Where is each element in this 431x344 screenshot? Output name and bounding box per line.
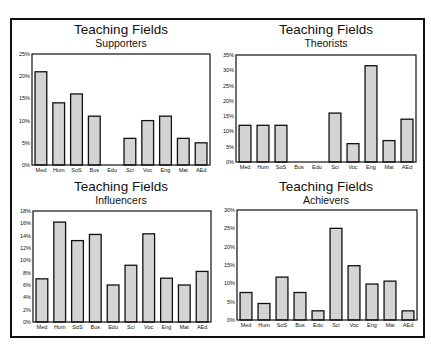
bar-sos — [71, 94, 83, 165]
y-tick-label: 10% — [19, 118, 30, 124]
bar-aed — [196, 271, 208, 322]
chart-theorists: Teaching Fields Theorists 0%5%10%15%20%2… — [223, 22, 416, 170]
bar-med — [239, 125, 251, 162]
x-tick-label: AEd — [197, 324, 207, 330]
x-tick-label: Eng — [161, 167, 171, 173]
y-tick-label: 25% — [19, 51, 30, 57]
x-tick-label: Voc — [143, 167, 152, 173]
bar-aed — [401, 119, 413, 162]
y-tick-label: 4% — [23, 294, 31, 300]
x-tick-label: AEd — [196, 167, 206, 173]
y-tick-label: 0% — [226, 159, 234, 165]
x-tick-label: Hum — [53, 167, 65, 173]
chart-subtitle: Achievers — [303, 194, 349, 206]
bar-sci — [125, 265, 137, 322]
x-tick-label: SoS — [276, 164, 287, 170]
y-tick-label: 15% — [224, 262, 235, 268]
y-tick-label: 10% — [20, 257, 31, 263]
x-tick-label: Bus — [90, 167, 100, 173]
bar-eng — [160, 116, 172, 165]
x-tick-label: SoS — [277, 322, 288, 328]
y-tick-label: 15% — [223, 113, 234, 119]
bar-aed — [195, 143, 207, 165]
x-tick-label: Edu — [108, 324, 118, 330]
x-tick-label: Mat — [384, 164, 394, 170]
bar-voc — [348, 266, 360, 320]
bar-edu — [107, 285, 119, 322]
x-tick-label: Hum — [257, 164, 269, 170]
bar-voc — [143, 234, 155, 322]
x-tick-label: Sci — [332, 322, 340, 328]
bar-edu — [312, 311, 324, 320]
x-tick-label: Med — [241, 322, 252, 328]
y-tick-label: 5% — [227, 299, 235, 305]
chart-influencers: Teaching Fields Influencers 0%2%4%6%8%10… — [20, 179, 211, 330]
y-tick-label: 30% — [223, 67, 234, 73]
bar-med — [240, 293, 252, 321]
y-tick-label: 8% — [23, 270, 31, 276]
x-tick-label: Med — [240, 164, 251, 170]
y-tick-label: 35% — [223, 52, 234, 58]
bar-med — [35, 72, 47, 165]
chart-title: Teaching Fields — [74, 22, 168, 37]
bar-mat — [177, 138, 189, 165]
x-tick-label: Voc — [349, 322, 358, 328]
x-tick-label: SoS — [71, 167, 82, 173]
bar-aed — [402, 311, 414, 320]
x-tick-label: Hum — [54, 324, 66, 330]
x-tick-label: Mat — [385, 322, 395, 328]
bar-sci — [124, 138, 136, 165]
bar-hum — [258, 304, 270, 321]
x-tick-label: Eng — [162, 324, 172, 330]
bar-sci — [330, 228, 342, 320]
bar-hum — [54, 222, 66, 322]
x-tick-label: Mat — [179, 167, 189, 173]
y-tick-label: 20% — [19, 73, 30, 79]
bar-voc — [347, 144, 359, 162]
x-tick-label: Bus — [294, 164, 304, 170]
y-tick-label: 2% — [23, 307, 31, 313]
chart-title: Teaching Fields — [74, 179, 168, 194]
y-tick-label: 0% — [22, 162, 30, 168]
y-tick-label: 0% — [227, 317, 235, 323]
chart-supporters: Teaching Fields Supporters 0%5%10%15%20%… — [19, 22, 210, 173]
bar-eng — [366, 284, 378, 320]
x-tick-label: Sci — [126, 167, 134, 173]
x-tick-label: Eng — [366, 164, 376, 170]
chart-subtitle: Theorists — [304, 37, 347, 49]
x-tick-label: AEd — [403, 322, 413, 328]
bar-bus — [89, 234, 101, 322]
bar-sos — [275, 125, 287, 162]
x-tick-label: Mat — [180, 324, 190, 330]
bar-sos — [276, 277, 288, 320]
x-tick-label: Edu — [313, 322, 323, 328]
bar-eng — [365, 66, 377, 162]
x-tick-label: Sci — [331, 164, 339, 170]
bar-hum — [257, 125, 269, 162]
y-tick-label: 20% — [223, 98, 234, 104]
chart-title: Teaching Fields — [279, 22, 373, 37]
y-tick-label: 16% — [20, 220, 31, 226]
x-tick-label: Eng — [367, 322, 377, 328]
chart-achievers: Teaching Fields Achievers 0%5%10%15%20%2… — [224, 179, 417, 328]
chart-subtitle: Supporters — [95, 37, 146, 49]
x-tick-label: Med — [37, 324, 48, 330]
bar-voc — [142, 121, 154, 165]
bar-bus — [88, 116, 100, 165]
bar-mat — [384, 281, 396, 320]
x-tick-label: Voc — [348, 164, 357, 170]
bar-mat — [178, 285, 190, 322]
bar-hum — [53, 103, 65, 165]
y-tick-label: 25% — [223, 83, 234, 89]
y-tick-label: 12% — [20, 245, 31, 251]
bar-mat — [383, 141, 395, 162]
x-tick-label: Bus — [91, 324, 101, 330]
chart-subtitle: Influencers — [95, 194, 146, 206]
x-tick-label: Hum — [258, 322, 270, 328]
x-tick-label: Med — [36, 167, 47, 173]
bar-sci — [329, 113, 341, 162]
y-tick-label: 30% — [224, 207, 235, 213]
chart-title: Teaching Fields — [279, 179, 373, 194]
y-tick-label: 18% — [20, 208, 31, 214]
x-tick-label: SoS — [72, 324, 83, 330]
